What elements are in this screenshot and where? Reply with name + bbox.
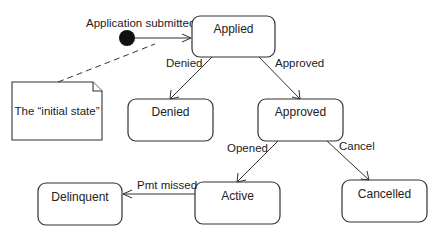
transition-opened-label: Opened	[227, 142, 268, 154]
state-diagram: The “initial state” Application submitte…	[0, 0, 439, 237]
transition-active-delinquent: Pmt missed	[123, 179, 197, 198]
initial-transition-label: Application submitted	[86, 17, 195, 29]
state-denied: Denied	[128, 99, 213, 141]
transition-cancel-label: Cancel	[339, 140, 375, 152]
initial-node-icon	[119, 30, 135, 46]
state-approved-label: Approved	[275, 105, 326, 119]
state-applied: Applied	[192, 16, 275, 57]
state-delinquent-label: Delinquent	[51, 190, 109, 204]
initial-state-note: The “initial state”	[12, 82, 102, 140]
state-applied-label: Applied	[213, 22, 253, 36]
state-active: Active	[195, 182, 280, 224]
state-active-label: Active	[221, 189, 254, 203]
transition-applied-approved: Approved	[259, 57, 324, 99]
transition-approved-active: Opened	[227, 141, 278, 182]
note-text: The “initial state”	[14, 105, 99, 117]
transition-applied-denied: Denied	[166, 57, 212, 99]
state-approved: Approved	[258, 99, 343, 141]
state-denied-label: Denied	[151, 105, 189, 119]
note-connector	[58, 44, 155, 82]
transition-denied-label: Denied	[166, 57, 202, 69]
state-delinquent: Delinquent	[38, 183, 122, 225]
state-cancelled-label: Cancelled	[358, 187, 411, 201]
transition-pmt-missed-label: Pmt missed	[137, 179, 197, 191]
transition-approved-cancelled: Cancel	[327, 140, 375, 180]
state-cancelled: Cancelled	[342, 180, 427, 222]
transition-initial-applied	[135, 34, 191, 42]
transition-approved-label: Approved	[275, 57, 324, 69]
